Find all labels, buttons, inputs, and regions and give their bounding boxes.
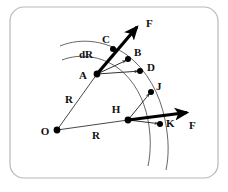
force-label-upper: F [146,17,153,29]
point-dot-B [125,56,131,62]
point-dot-K [157,121,163,127]
R-label-OH: R [92,129,101,141]
point-label-A: A [79,69,87,81]
diagram-canvas: O A C B D H J K F F dR R R [0,0,228,192]
point-dot-C [110,46,116,52]
point-dot-O [54,127,61,134]
R-label-OA: R [65,93,74,105]
radius-OA [57,74,97,130]
point-label-C: C [102,33,110,45]
point-dot-H [125,117,132,124]
point-dot-J [148,89,154,95]
dR-label: dR [79,48,94,60]
point-label-B: B [134,46,142,58]
dimension-label-group: dR R R [65,48,101,141]
point-label-group: O A C B D H J K [41,33,175,137]
point-dot-A [94,71,101,78]
figure-container: O A C B D H J K F F dR R R [0,0,228,192]
force-label-lower: F [189,119,196,131]
point-label-O: O [41,125,50,137]
point-dot-D [137,68,143,74]
point-label-K: K [166,117,175,129]
point-label-J: J [156,80,162,92]
vector-H-to-J [128,94,150,120]
inner-radius-arc [62,56,150,166]
figure-border [10,7,218,178]
point-label-D: D [147,61,155,73]
point-label-H: H [112,103,121,115]
force-vector-lower [128,113,187,121]
